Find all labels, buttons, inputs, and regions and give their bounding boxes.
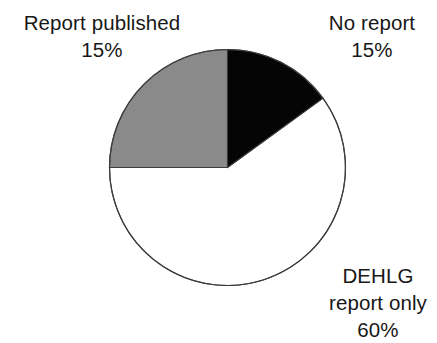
pie-label-no-report-name: No report — [310, 9, 434, 36]
pie-label-report-published: Report published 15% — [4, 9, 200, 63]
pie-label-dehlg-report-only: DEHLG report only 60% — [322, 262, 434, 343]
pie-slice-report-published — [110, 50, 228, 168]
pie-label-dehlg-name-line1: DEHLG — [322, 262, 434, 289]
pie-label-report-published-name: Report published — [4, 9, 200, 36]
pie-label-dehlg-name-line2: report only — [322, 289, 434, 316]
pie-label-no-report: No report 15% — [310, 9, 434, 63]
pie-label-no-report-value: 15% — [310, 36, 434, 63]
pie-label-report-published-value: 15% — [4, 36, 200, 63]
pie-chart-figure: Report published 15% No report 15% DEHLG… — [0, 0, 437, 343]
pie-label-dehlg-value: 60% — [322, 316, 434, 343]
